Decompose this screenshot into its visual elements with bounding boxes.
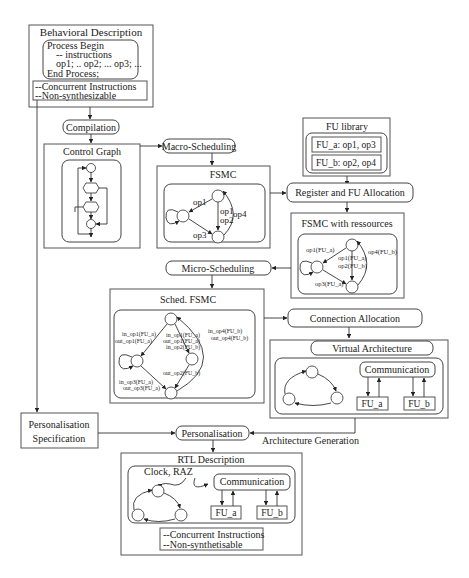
fu-a-block: FU_a — [215, 508, 237, 518]
code-line: End Process; — [47, 68, 99, 79]
architecture-generation-label: Architecture Generation — [262, 435, 359, 446]
svg-text:Micro-Scheduling: Micro-Scheduling — [182, 263, 255, 274]
svg-text:in_op4(FU_b): in_op4(FU_b) — [208, 328, 242, 335]
svg-text:op4(FU_b): op4(FU_b) — [368, 248, 397, 256]
design-flow-diagram: Behavioral Description Process Begin -- … — [0, 0, 469, 578]
fsmc-title: FSMC — [210, 169, 237, 180]
communication-block: Communication — [365, 364, 429, 375]
fu-entry: FU_b: op2, op4 — [316, 158, 376, 168]
svg-text:op3: op3 — [193, 230, 207, 240]
control-graph-box: Control Graph — [44, 144, 140, 248]
fu-library-box: FU library FU_a: op1, op3 FU_b: op2, op4 — [303, 118, 390, 176]
svg-text:Personalisation: Personalisation — [181, 428, 242, 439]
svg-text:op4: op4 — [233, 209, 247, 219]
macro-scheduling-step: Macro-Scheduling — [162, 139, 236, 153]
connection-allocation-step: Connection Allocation — [288, 309, 422, 327]
register-fu-allocation-step: Register and FU Allocation — [287, 183, 413, 202]
svg-text:out_op2(FU_b): out_op2(FU_b) — [163, 370, 200, 377]
svg-text:Macro-Scheduling: Macro-Scheduling — [162, 141, 236, 152]
rtl-title: RTL Description — [177, 454, 244, 465]
fu-library-title: FU library — [326, 121, 368, 132]
fu-b-block: FU_b — [261, 508, 283, 518]
svg-text:Connection Allocation: Connection Allocation — [310, 313, 400, 324]
svg-text:Compilation: Compilation — [66, 122, 116, 133]
fsmc-box: FSMC op1 op1 op2 op4 op3 — [157, 166, 270, 248]
svg-text:op1(FU_a): op1(FU_a) — [338, 254, 367, 262]
svg-text:Personalisation: Personalisation — [28, 419, 89, 430]
behavioral-title: Behavioral Description — [40, 26, 143, 38]
rtl-description-box: RTL Description Clock, RAZ Communication… — [121, 453, 302, 555]
fsmc-resources-box: FSMC with ressources op1(FU_a) op1(FU_a)… — [291, 213, 404, 298]
svg-text:op2(FU_b): op2(FU_b) — [338, 262, 367, 270]
micro-scheduling-step: Micro-Scheduling — [166, 261, 271, 275]
behavioral-description-box: Behavioral Description Process Begin -- … — [29, 25, 153, 107]
sched-fsmc-box: Sched. FSMC in_op1(FU_a) out_op1(FU_a) i… — [110, 289, 264, 403]
communication-block: Communication — [220, 476, 284, 487]
svg-text:out_op4(FU_b): out_op4(FU_b) — [211, 335, 248, 342]
compilation-step: Compilation — [63, 120, 119, 134]
svg-text:op1: op1 — [193, 197, 207, 207]
flow-arrow — [250, 418, 355, 433]
fu-a-block: FU_a — [361, 399, 383, 409]
svg-text:op1(FU_a): op1(FU_a) — [306, 246, 335, 254]
fsmc-resources-title: FSMC with ressources — [301, 218, 392, 229]
note-line: --Non-synthetisable — [163, 539, 243, 550]
svg-text:Specification: Specification — [33, 433, 86, 444]
svg-text:in_op2(FU_b): in_op2(FU_b) — [166, 344, 200, 351]
personalisation-specification-box: Personalisation Specification — [21, 413, 98, 448]
control-graph-title: Control Graph — [63, 146, 121, 157]
fu-entry: FU_a: op1, op3 — [316, 140, 376, 150]
svg-text:in_op1(FU_a): in_op1(FU_a) — [122, 331, 156, 338]
svg-text:Register and FU Allocation: Register and FU Allocation — [295, 187, 405, 198]
svg-text:out_op1(FU_a): out_op1(FU_a) — [115, 338, 152, 345]
svg-text:op3(FU_a): op3(FU_a) — [315, 280, 344, 288]
clock-raz-label: Clock, RAZ — [144, 466, 193, 477]
sched-fsmc-title: Sched. FSMC — [160, 294, 216, 305]
svg-text:out_op3(FU_a): out_op3(FU_a) — [123, 385, 160, 392]
virtual-architecture-box: Virtual Architecture Communication FU_a … — [270, 340, 448, 418]
note-line: --Non-synthesizable — [35, 90, 117, 101]
personalisation-step: Personalisation — [176, 426, 249, 440]
svg-text:op2: op2 — [220, 215, 234, 225]
fu-b-block: FU_b — [408, 399, 430, 409]
virtual-architecture-title: Virtual Architecture — [332, 343, 412, 354]
